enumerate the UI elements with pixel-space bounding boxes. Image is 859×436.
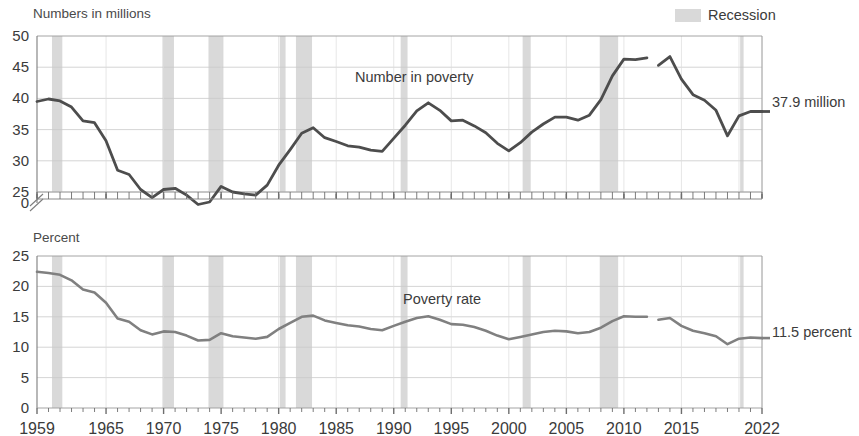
- recession-band: [52, 36, 62, 192]
- x-axis-tick-label: 1965: [88, 420, 124, 436]
- x-axis-tick-label: 1985: [318, 420, 354, 436]
- top-y-tick-label: 40: [12, 89, 29, 106]
- top-panel-axis-title: Numbers in millions: [33, 6, 151, 21]
- bottom-panel-series-label: Poverty rate: [403, 291, 481, 307]
- top-panel-end-value-wrap: 37.9 million: [772, 93, 845, 111]
- top-panel: [37, 36, 762, 205]
- top-panel-series-label-wrap: Number in poverty: [355, 68, 473, 86]
- legend: Recession: [675, 7, 776, 23]
- legend-label-recession: Recession: [708, 7, 776, 23]
- recession-band: [296, 256, 312, 408]
- top-y-tick-label: 50: [12, 27, 29, 44]
- recession-band: [740, 256, 743, 408]
- bottom-y-tick-label: 20: [12, 277, 29, 294]
- x-axis-tick-label: 1990: [376, 420, 412, 436]
- bottom-y-tick-label: 10: [12, 338, 29, 355]
- recession-band: [296, 36, 312, 192]
- recession-band: [523, 36, 531, 192]
- x-axis-tick-label: 2022: [744, 420, 780, 436]
- top-y-tick-label-zero: 0: [21, 194, 29, 211]
- bottom-y-tick-label: 0: [21, 399, 29, 416]
- bottom-y-tick-label: 5: [21, 369, 29, 386]
- bottom-panel-end-value: 11.5 percent: [772, 324, 852, 340]
- recession-band: [52, 256, 62, 408]
- recession-band: [600, 36, 618, 192]
- x-axis-tick-label: 1995: [433, 420, 469, 436]
- top-panel-axis-title-wrap: Numbers in millions: [33, 4, 151, 22]
- x-axis-tick-label: 1970: [146, 420, 182, 436]
- recession-swatch-icon: [675, 9, 701, 22]
- x-axis-tick-label: 2000: [491, 420, 527, 436]
- top-panel-series-label: Number in poverty: [355, 69, 473, 85]
- x-axis-tick-label: 1975: [203, 420, 239, 436]
- recession-band: [401, 36, 408, 192]
- x-axis-tick-label: 1959: [19, 420, 55, 436]
- recession-band: [162, 36, 174, 192]
- bottom-panel-series-label-wrap: Poverty rate: [403, 290, 481, 308]
- bottom-data-line: [37, 272, 647, 341]
- x-axis-tick-label: 2005: [549, 420, 585, 436]
- top-y-tick-label: 45: [12, 58, 29, 75]
- recession-band: [401, 256, 408, 408]
- bottom-panel-axis-title: Percent: [33, 230, 80, 245]
- x-axis-tick-label: 2010: [606, 420, 642, 436]
- chart-canvas: 5045403530252520151050019591965197019751…: [0, 0, 859, 436]
- bottom-y-tick-label: 25: [12, 247, 29, 264]
- poverty-chart-figure: 5045403530252520151050019591965197019751…: [0, 0, 859, 436]
- top-panel-end-value: 37.9 million: [772, 94, 845, 110]
- bottom-panel: [37, 256, 762, 414]
- recession-band: [600, 256, 618, 408]
- bottom-y-tick-label: 15: [12, 308, 29, 325]
- recession-band: [280, 256, 286, 408]
- bottom-data-line: [658, 318, 762, 344]
- x-axis-tick-label: 2015: [664, 420, 700, 436]
- top-y-tick-label: 35: [12, 121, 29, 138]
- top-y-tick-label: 30: [12, 152, 29, 169]
- top-data-line: [658, 57, 762, 136]
- recession-band: [280, 36, 286, 192]
- x-axis-tick-label: 1980: [261, 420, 297, 436]
- bottom-panel-axis-title-wrap: Percent: [33, 228, 80, 246]
- recession-band: [523, 256, 531, 408]
- top-data-line: [37, 58, 647, 205]
- bottom-panel-end-value-wrap: 11.5 percent: [772, 323, 852, 341]
